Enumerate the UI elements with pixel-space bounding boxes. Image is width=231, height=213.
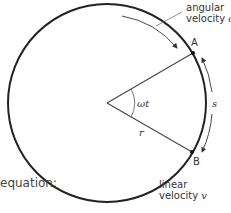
linear-label-line1: linear <box>159 179 207 190</box>
point-b-dot <box>190 150 194 154</box>
angular-velocity-arrow <box>122 16 177 48</box>
radius-label: r <box>139 127 144 138</box>
linear-velocity-label: linear velocity v <box>159 179 207 201</box>
angle-label: ωt <box>137 98 149 109</box>
angular-velocity-label: angular velocity ω <box>186 2 231 24</box>
angle-arc <box>131 89 135 117</box>
radius-to-b <box>107 103 192 152</box>
point-a-label: A <box>191 37 198 48</box>
equation-label: equation: <box>0 176 57 190</box>
arc-arrow-down <box>202 114 212 152</box>
arc-length-label: s <box>212 98 217 109</box>
point-a-dot <box>191 51 195 55</box>
point-b-label: B <box>193 156 200 167</box>
angular-label-line2: velocity <box>186 13 225 24</box>
radius-to-a <box>107 53 193 103</box>
v-symbol: v <box>201 190 207 201</box>
omega-symbol: ω <box>228 13 231 24</box>
linear-label-line2: velocity <box>159 190 198 201</box>
arc-arrow-up <box>202 58 212 92</box>
angular-label-line1: angular <box>186 2 231 13</box>
